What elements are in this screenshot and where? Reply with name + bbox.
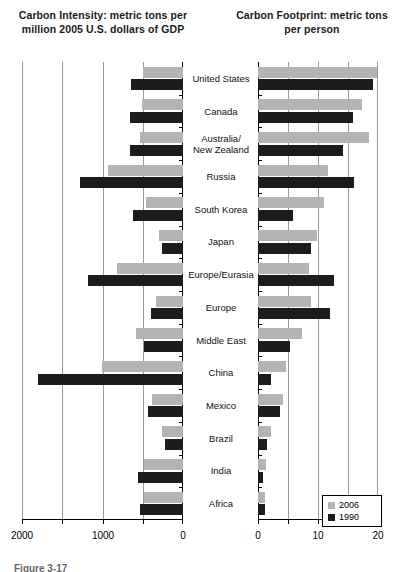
category-separator-tick	[179, 193, 183, 194]
category-separator-tick	[179, 226, 183, 227]
category-label-europe-eurasia: Europe/Eurasia	[186, 269, 256, 280]
category-separator-tick	[179, 127, 183, 128]
axis-tick	[288, 520, 289, 524]
axis-tick	[318, 520, 319, 524]
bar-carbon-intensity-4-2006	[146, 197, 183, 208]
category-label-united-states: United States	[186, 73, 256, 84]
category-separator-tick	[179, 487, 183, 488]
category-separator-tick	[258, 389, 262, 390]
bar-carbon-intensity-10-1990	[148, 406, 183, 417]
bar-carbon-footprint-10-2006	[258, 394, 283, 405]
bar-carbon-intensity-12-1990	[138, 472, 183, 483]
axis-tick-label: 1000	[92, 530, 114, 541]
category-label-canada: Canada	[186, 106, 256, 117]
axis-tick	[62, 520, 63, 524]
category-separator-tick	[258, 291, 262, 292]
bar-carbon-intensity-7-1990	[151, 308, 183, 319]
legend: 2006 1990	[322, 495, 382, 527]
bar-carbon-intensity-3-2006	[108, 165, 183, 176]
axis-tick	[22, 520, 23, 524]
bar-carbon-footprint-1-2006	[258, 99, 362, 110]
bar-carbon-footprint-4-2006	[258, 197, 324, 208]
gridline	[377, 62, 378, 520]
bar-carbon-intensity-3-1990	[80, 177, 183, 188]
left-chart-title: Carbon Intensity: metric tons per millio…	[18, 9, 188, 36]
category-separator-tick	[258, 487, 262, 488]
bar-carbon-footprint-7-2006	[258, 296, 311, 307]
bar-carbon-footprint-12-2006	[258, 459, 266, 470]
legend-label-1990: 1990	[339, 512, 359, 522]
bar-carbon-footprint-2-1990	[258, 145, 343, 156]
axis-tick	[182, 520, 183, 524]
bar-carbon-footprint-0-1990	[258, 79, 373, 90]
bar-carbon-intensity-8-1990	[144, 341, 183, 352]
category-separator-tick	[179, 258, 183, 259]
bar-carbon-intensity-6-1990	[88, 275, 183, 286]
gridline	[318, 62, 319, 520]
bar-carbon-footprint-4-1990	[258, 210, 293, 221]
category-separator-tick	[258, 258, 262, 259]
carbon-footprint-plot: 01020	[258, 62, 378, 520]
bar-carbon-intensity-13-1990	[140, 504, 183, 515]
gridline	[103, 62, 104, 520]
bar-carbon-intensity-12-2006	[144, 459, 183, 470]
bar-carbon-footprint-3-1990	[258, 177, 354, 188]
category-separator-tick	[258, 127, 262, 128]
category-label-australia--new-zealand: Australia/ New Zealand	[186, 133, 256, 155]
category-separator-tick	[179, 422, 183, 423]
category-separator-tick	[179, 389, 183, 390]
bar-carbon-footprint-2-2006	[258, 132, 369, 143]
category-separator-tick	[179, 356, 183, 357]
axis-tick	[258, 520, 259, 524]
legend-item-1990: 1990	[328, 511, 381, 523]
bar-carbon-intensity-4-1990	[133, 210, 183, 221]
category-separator-tick	[179, 324, 183, 325]
category-label-africa: Africa	[186, 498, 256, 509]
bar-carbon-footprint-11-2006	[258, 426, 271, 437]
category-label-south-korea: South Korea	[186, 204, 256, 215]
category-separator-tick	[258, 422, 262, 423]
bar-carbon-footprint-5-2006	[258, 230, 317, 241]
bar-carbon-intensity-9-2006	[102, 361, 183, 372]
category-separator-tick	[179, 455, 183, 456]
bar-carbon-footprint-8-2006	[258, 328, 302, 339]
category-label-mexico: Mexico	[186, 400, 256, 411]
category-separator-tick	[258, 455, 262, 456]
bar-carbon-footprint-0-2006	[258, 67, 377, 78]
bar-carbon-intensity-5-2006	[159, 230, 183, 241]
bar-carbon-footprint-13-2006	[258, 492, 265, 503]
bar-carbon-intensity-11-1990	[165, 439, 183, 450]
axis-tick-label: 10	[312, 530, 323, 541]
category-separator-tick	[258, 226, 262, 227]
carbon-intensity-plot: 200010000	[22, 62, 183, 520]
bar-carbon-intensity-2-2006	[140, 132, 183, 143]
axis-tick-label: 2000	[11, 530, 33, 541]
bar-carbon-footprint-8-1990	[258, 341, 290, 352]
bar-carbon-footprint-10-1990	[258, 406, 280, 417]
bar-carbon-intensity-11-2006	[162, 426, 183, 437]
bar-carbon-footprint-9-1990	[258, 374, 271, 385]
bar-carbon-intensity-1-2006	[142, 99, 183, 110]
axis-tick	[143, 520, 144, 524]
gridline	[288, 62, 289, 520]
category-separator-tick	[258, 193, 262, 194]
axis-tick-label: 0	[255, 530, 261, 541]
bar-carbon-intensity-1-1990	[130, 112, 183, 123]
bar-carbon-footprint-6-1990	[258, 275, 334, 286]
bar-carbon-footprint-12-1990	[258, 472, 263, 483]
category-label-middle-east: Middle East	[186, 335, 256, 346]
bar-carbon-footprint-13-1990	[258, 504, 265, 515]
bar-carbon-intensity-0-2006	[143, 67, 183, 78]
figure-caption: Figure 3-17	[14, 563, 67, 572]
legend-swatch-1990-icon	[328, 514, 335, 521]
bar-carbon-intensity-6-2006	[117, 263, 183, 274]
category-label-india: India	[186, 465, 256, 476]
gridline	[348, 62, 349, 520]
bar-carbon-footprint-9-2006	[258, 361, 286, 372]
axis-tick-label: 0	[180, 530, 186, 541]
gridline	[22, 62, 23, 520]
bar-carbon-footprint-5-1990	[258, 243, 311, 254]
bar-carbon-intensity-0-1990	[131, 79, 183, 90]
category-label-japan: Japan	[186, 236, 256, 247]
bar-carbon-intensity-8-2006	[136, 328, 183, 339]
